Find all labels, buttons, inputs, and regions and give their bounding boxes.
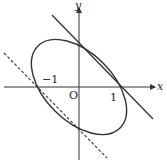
tick-label-neg-one: −1 xyxy=(42,74,58,85)
diagram: y x O −1 1 xyxy=(0,0,167,161)
diagram-canvas xyxy=(0,0,167,161)
tangent-line-dashed xyxy=(4,53,107,158)
y-axis-label: y xyxy=(75,0,81,11)
tangent-line-solid xyxy=(52,15,153,119)
origin-label: O xyxy=(69,90,78,101)
x-axis-label: x xyxy=(157,81,163,92)
tick-label-one: 1 xyxy=(110,92,117,103)
